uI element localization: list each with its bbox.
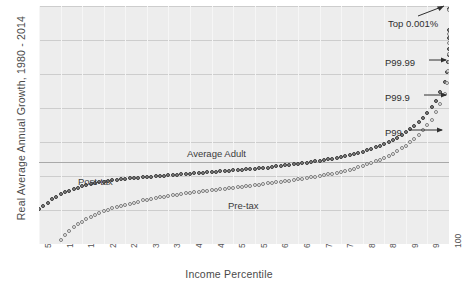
data-point-pre	[356, 165, 360, 169]
data-point-pre	[408, 140, 412, 144]
data-point-pre	[318, 174, 322, 178]
data-point-post	[330, 157, 334, 161]
data-point-post	[54, 195, 58, 199]
data-point-pre	[84, 217, 88, 221]
gridline-vertical	[61, 6, 62, 244]
data-point-pre	[421, 128, 425, 132]
data-point-pre	[443, 92, 447, 96]
gridline-vertical	[147, 6, 148, 244]
data-point-pre	[67, 229, 71, 233]
data-point-pre	[248, 184, 252, 188]
gridline-vertical	[104, 6, 105, 244]
data-point-post	[408, 127, 412, 131]
data-point-pre	[438, 102, 442, 106]
data-point-pre	[218, 187, 222, 191]
gridline-vertical	[341, 6, 342, 244]
data-point-pre	[425, 123, 429, 127]
data-point-post	[141, 175, 145, 179]
gridline-vertical	[168, 6, 169, 244]
data-point-pre	[447, 32, 449, 36]
data-point-pre	[395, 149, 399, 153]
data-point-post	[425, 111, 429, 115]
data-point-post	[231, 168, 235, 172]
annotation-p99-99: P99.99	[385, 57, 415, 68]
data-point-post	[192, 171, 196, 175]
data-point-pre	[205, 189, 209, 193]
data-point-pre	[97, 211, 101, 215]
gridline-horizontal	[39, 40, 449, 41]
data-point-pre	[72, 225, 76, 229]
data-point-post	[248, 167, 252, 171]
data-point-pre	[417, 133, 421, 137]
data-point-pre	[223, 187, 227, 191]
series-label-pre-tax: Pre-tax	[228, 200, 259, 211]
data-point-post	[404, 130, 408, 134]
data-point-post	[387, 140, 391, 144]
data-point-pre	[59, 238, 63, 242]
data-point-pre	[369, 161, 373, 165]
data-point-pre	[391, 152, 395, 156]
data-point-post	[218, 169, 222, 173]
data-point-post	[72, 187, 76, 191]
data-point-post	[123, 177, 127, 181]
data-point-pre	[287, 179, 291, 183]
data-point-post	[236, 168, 240, 172]
data-point-pre	[412, 137, 416, 141]
data-point-pre	[343, 169, 347, 173]
data-point-post	[223, 169, 227, 173]
data-point-post	[300, 161, 304, 165]
data-point-pre	[305, 176, 309, 180]
data-point-pre	[387, 154, 391, 158]
gridline-horizontal	[39, 108, 449, 109]
data-point-pre	[300, 177, 304, 181]
data-point-pre	[154, 196, 158, 200]
gridline-vertical	[125, 6, 126, 244]
data-point-post	[154, 174, 158, 178]
data-point-pre	[447, 52, 449, 56]
y-axis-title: Real Average Annual Growth, 1980 - 2014	[15, 0, 27, 243]
data-point-post	[67, 189, 71, 193]
data-point-post	[382, 142, 386, 146]
data-point-pre	[123, 203, 127, 207]
data-point-post	[287, 163, 291, 167]
data-point-pre	[141, 198, 145, 202]
series-label-post-tax: Post-tax	[78, 176, 113, 187]
data-point-pre	[261, 182, 265, 186]
data-point-pre	[446, 69, 449, 73]
data-point-pre	[63, 233, 67, 237]
gridline-vertical	[363, 6, 364, 244]
data-point-post	[205, 170, 209, 174]
x-axis-title: Income Percentile	[0, 268, 458, 280]
data-point-post	[447, 47, 449, 51]
data-point-post	[369, 147, 373, 151]
data-point-pre	[236, 185, 240, 189]
x-axis-tick-label: 100	[453, 218, 463, 248]
data-point-post	[318, 159, 322, 163]
gridline-vertical	[298, 6, 299, 244]
data-point-pre	[149, 197, 153, 201]
data-point-pre	[274, 180, 278, 184]
data-point-pre	[404, 144, 408, 148]
data-point-pre	[313, 175, 317, 179]
data-point-pre	[400, 146, 404, 150]
gridline-vertical	[212, 6, 213, 244]
gridline-horizontal	[39, 6, 449, 7]
data-point-pre	[136, 200, 140, 204]
gridline-vertical	[82, 6, 83, 244]
data-point-post	[261, 166, 265, 170]
gridline-vertical	[276, 6, 277, 244]
annotation-top-0001: Top 0.001%	[388, 18, 438, 29]
data-point-post	[417, 120, 421, 124]
data-point-post	[46, 201, 50, 205]
label-average-adult: Average Adult	[187, 148, 246, 159]
data-point-post	[447, 36, 449, 40]
data-point-pre	[447, 8, 449, 12]
data-point-post	[305, 161, 309, 165]
annotation-p99: P99	[385, 127, 402, 138]
gridline-vertical	[406, 6, 407, 244]
data-point-post	[343, 154, 347, 158]
gridline-vertical	[320, 6, 321, 244]
data-point-pre	[330, 172, 334, 176]
data-point-post	[438, 90, 442, 94]
